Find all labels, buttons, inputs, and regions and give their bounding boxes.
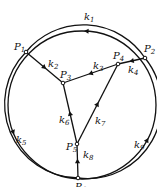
arrowhead-icon (84, 29, 89, 34)
edge-label-k2: k2 (48, 58, 59, 71)
edge-label-k1: k1 (84, 11, 95, 24)
node-label-P4: P4 (112, 50, 124, 63)
node-label-P1: P1 (13, 41, 25, 54)
node-label-P3: P3 (59, 69, 72, 82)
node-label-P6: P6 (74, 181, 87, 187)
edge-label-k3: k3 (93, 60, 104, 73)
arrowhead-icon (129, 58, 134, 63)
node-P3 (61, 81, 65, 85)
edge-label-k9: k9 (134, 139, 145, 152)
graph-diagram: k1k2k3k4k5k6k7k8k9P1P2P3P4P5P6 (0, 0, 157, 187)
arrowhead-icon (75, 159, 80, 164)
node-P6 (76, 176, 80, 180)
edge-label-k7: k7 (95, 115, 106, 128)
edge-k6 (63, 83, 77, 144)
outer-circle (8, 31, 156, 179)
edge-label-k8: k8 (83, 149, 94, 162)
arrowhead-icon (68, 111, 73, 116)
edges-layer (5, 25, 157, 179)
edge-label-k4: k4 (128, 64, 139, 77)
node-P2 (143, 56, 147, 60)
node-label-P2: P2 (143, 43, 156, 56)
labels-layer: k1k2k3k4k5k6k7k8k9P1P2P3P4P5P6 (13, 11, 156, 187)
